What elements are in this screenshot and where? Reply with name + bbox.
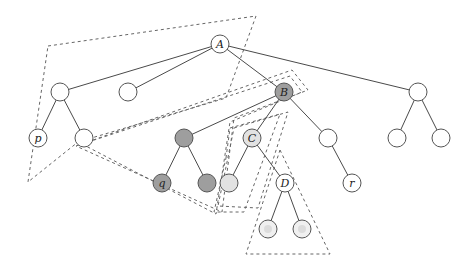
tree-node	[220, 174, 238, 192]
tree-node	[388, 129, 406, 147]
tree-edges	[38, 44, 441, 229]
edge-A-n1	[60, 44, 220, 92]
edge-B-n9	[284, 92, 328, 138]
node-inner-dot	[264, 225, 272, 233]
node-circle	[175, 129, 193, 147]
node-circle	[198, 174, 216, 192]
node-circle	[319, 129, 337, 147]
tree-node	[409, 83, 427, 101]
node-label: D	[280, 177, 290, 190]
tree-node-D: D	[276, 174, 294, 192]
tree-node-p: p	[29, 129, 47, 147]
node-circle	[75, 129, 93, 147]
tree-node	[198, 174, 216, 192]
edge-B-n7	[184, 92, 284, 138]
node-label: r	[349, 177, 355, 190]
tree-node	[432, 129, 450, 147]
node-circle	[409, 83, 427, 101]
tree-node	[75, 129, 93, 147]
tree-diagram: ABpCqDr	[0, 0, 465, 271]
tree-node	[259, 220, 277, 238]
node-circle	[432, 129, 450, 147]
node-circle	[388, 129, 406, 147]
node-circle	[51, 83, 69, 101]
node-circle	[220, 174, 238, 192]
edge-A-n4	[220, 44, 418, 92]
node-label: p	[34, 132, 41, 145]
node-label: C	[248, 132, 257, 145]
tree-node-r: r	[343, 174, 361, 192]
tree-node-A: A	[211, 35, 229, 53]
tree-node-B: B	[275, 83, 293, 101]
node-label: A	[215, 38, 224, 51]
edge-A-n2	[128, 44, 220, 92]
region-C-right	[218, 112, 288, 208]
tree-node	[51, 83, 69, 101]
tree-node-q: q	[153, 174, 171, 192]
tree-node	[119, 83, 137, 101]
tree-svg: ABpCqDr	[0, 0, 465, 271]
node-label: q	[158, 177, 165, 190]
tree-node	[319, 129, 337, 147]
region-D	[246, 150, 330, 254]
node-inner-dot	[298, 225, 306, 233]
tree-node	[293, 220, 311, 238]
node-circle	[119, 83, 137, 101]
tree-node-C: C	[243, 129, 261, 147]
tree-node	[175, 129, 193, 147]
node-label: B	[279, 86, 288, 99]
edge-A-B	[220, 44, 284, 92]
